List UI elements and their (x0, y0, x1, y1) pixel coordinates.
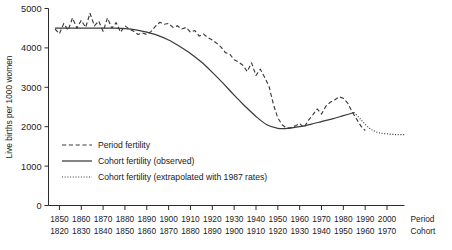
x-axis-name-period: Period (411, 214, 435, 224)
x-tick-label-cohort: 1860 (138, 226, 157, 236)
x-tick-label-period: 1900 (159, 214, 178, 224)
x-tick-label-period: 1970 (312, 214, 331, 224)
y-tick-label: 3000 (21, 83, 41, 93)
x-tick-label-cohort: 1890 (203, 226, 222, 236)
series-line-cohort-observed (55, 28, 354, 128)
x-tick-label-period: 1860 (72, 214, 91, 224)
x-tick-label-cohort: 1830 (72, 226, 91, 236)
x-tick-label-cohort: 1950 (334, 226, 353, 236)
x-tick-label-period: 1960 (290, 214, 309, 224)
x-tick-label-period: 1910 (181, 214, 200, 224)
x-tick-label-cohort: 1910 (247, 226, 266, 236)
chart-canvas: 0100020003000400050001850182018601830187… (0, 0, 452, 250)
y-axis-title: Live births per 1000 women (4, 55, 14, 158)
legend-label: Cohort fertility (extrapolated with 1987… (98, 172, 267, 182)
legend-label: Cohort fertility (observed) (98, 156, 195, 166)
y-tick-label: 5000 (21, 4, 41, 14)
x-tick-label-cohort: 1880 (181, 226, 200, 236)
x-tick-label-cohort: 1970 (378, 226, 397, 236)
x-tick-label-period: 1940 (247, 214, 266, 224)
x-axis-name-cohort: Cohort (411, 226, 437, 236)
chart-legend: Period fertilityCohort fertility (observ… (62, 140, 267, 182)
y-tick-label: 1000 (21, 162, 41, 172)
x-tick-label-cohort: 1900 (225, 226, 244, 236)
x-tick-label-period: 1880 (116, 214, 135, 224)
y-tick-label: 4000 (21, 43, 41, 53)
x-tick-label-period: 1930 (225, 214, 244, 224)
x-tick-label-period: 1920 (203, 214, 222, 224)
series-line-cohort-extrapolated (354, 113, 404, 135)
x-tick-label-period: 2000 (378, 214, 397, 224)
x-tick-label-period: 1990 (356, 214, 375, 224)
x-tick-label-cohort: 1870 (159, 226, 178, 236)
x-tick-label-cohort: 1850 (116, 226, 135, 236)
chart-axes: 0100020003000400050001850182018601830187… (21, 4, 404, 236)
x-tick-label-period: 1950 (269, 214, 288, 224)
x-tick-label-period: 1980 (334, 214, 353, 224)
legend-label: Period fertility (98, 140, 151, 150)
x-tick-label-cohort: 1820 (50, 226, 69, 236)
x-tick-label-cohort: 1940 (312, 226, 331, 236)
y-tick-label: 2000 (21, 122, 41, 132)
y-tick-label: 0 (36, 201, 41, 211)
x-tick-label-cohort: 1840 (94, 226, 113, 236)
chart-series (55, 13, 404, 134)
x-tick-label-period: 1890 (138, 214, 157, 224)
fertility-chart: 0100020003000400050001850182018601830187… (0, 0, 452, 250)
x-tick-label-period: 1870 (94, 214, 113, 224)
x-tick-label-cohort: 1960 (356, 226, 375, 236)
x-tick-label-cohort: 1930 (290, 226, 309, 236)
x-tick-label-cohort: 1920 (269, 226, 288, 236)
series-line-period-fertility (55, 13, 365, 130)
x-tick-label-period: 1850 (50, 214, 69, 224)
